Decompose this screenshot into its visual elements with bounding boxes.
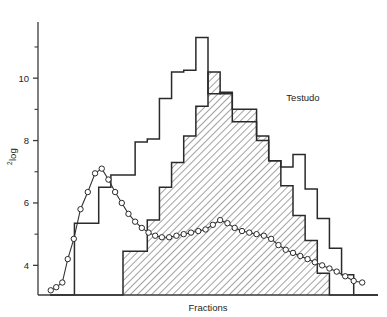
chart-plot-area: 46810 2 log Fractions Testudo bbox=[0, 0, 387, 317]
data-point-marker bbox=[188, 230, 193, 235]
data-point-marker bbox=[268, 236, 273, 241]
data-point-marker bbox=[99, 166, 104, 171]
species-annotation-label: Testudo bbox=[286, 92, 319, 103]
series-layer bbox=[48, 38, 378, 295]
data-point-marker bbox=[65, 256, 70, 261]
data-point-marker bbox=[54, 285, 59, 290]
data-point-marker bbox=[166, 235, 171, 240]
y-axis-title: 2 log bbox=[6, 148, 18, 165]
y-axis-title-text: log bbox=[7, 148, 18, 161]
data-point-marker bbox=[239, 228, 244, 233]
data-point-marker bbox=[92, 171, 97, 176]
data-point-marker bbox=[119, 200, 124, 205]
y-axis-tick-label: 10 bbox=[18, 73, 29, 84]
data-point-marker bbox=[247, 230, 252, 235]
data-point-marker bbox=[112, 189, 117, 194]
data-point-marker bbox=[225, 221, 230, 226]
data-point-marker bbox=[327, 266, 332, 271]
data-point-marker bbox=[261, 233, 266, 238]
data-point-marker bbox=[78, 207, 83, 212]
data-point-marker bbox=[196, 228, 201, 233]
y-axis-tick-label: 4 bbox=[24, 260, 29, 271]
data-point-marker bbox=[334, 269, 339, 274]
x-axis-title-text: Fractions bbox=[188, 302, 227, 313]
data-point-marker bbox=[298, 253, 303, 258]
data-point-marker bbox=[139, 225, 144, 230]
data-point-marker bbox=[319, 263, 324, 268]
data-point-marker bbox=[106, 177, 111, 182]
data-point-marker bbox=[152, 233, 157, 238]
data-point-marker bbox=[159, 235, 164, 240]
data-point-marker bbox=[312, 260, 317, 265]
data-point-marker bbox=[203, 227, 208, 232]
data-point-marker bbox=[290, 250, 295, 255]
data-point-marker bbox=[132, 219, 137, 224]
data-point-marker bbox=[181, 231, 186, 236]
data-point-marker bbox=[232, 225, 237, 230]
hatched-histogram-area bbox=[50, 72, 378, 295]
data-point-marker bbox=[146, 230, 151, 235]
data-point-marker bbox=[126, 211, 131, 216]
data-point-marker bbox=[60, 280, 65, 285]
data-point-marker bbox=[351, 278, 356, 283]
data-point-marker bbox=[305, 256, 310, 261]
data-point-marker bbox=[360, 280, 365, 285]
chart-figure: 46810 2 log Fractions Testudo bbox=[0, 0, 387, 317]
data-point-marker bbox=[210, 222, 215, 227]
data-point-marker bbox=[48, 288, 53, 293]
y-axis-tick-labels: 46810 bbox=[18, 73, 29, 271]
y-axis-tick-label: 6 bbox=[24, 197, 29, 208]
y-axis-tick-label: 8 bbox=[24, 135, 29, 146]
data-point-marker bbox=[217, 217, 222, 222]
data-point-marker bbox=[343, 274, 348, 279]
data-point-marker bbox=[71, 236, 76, 241]
data-point-marker bbox=[254, 231, 259, 236]
data-point-marker bbox=[283, 247, 288, 252]
data-point-marker bbox=[174, 233, 179, 238]
data-point-marker bbox=[276, 242, 281, 247]
data-point-marker bbox=[85, 189, 90, 194]
